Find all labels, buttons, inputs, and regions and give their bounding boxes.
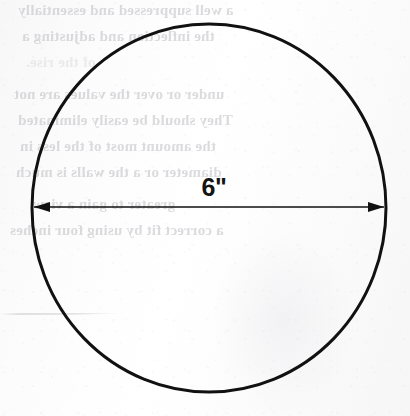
circle-diameter-figure: 6" [0, 0, 410, 416]
diameter-label: 6" [202, 175, 227, 200]
circle-outline [32, 24, 386, 392]
arrowhead-right-icon [368, 202, 384, 212]
scanned-page: a well suppressed and essentially the in… [0, 0, 410, 416]
figure-svg [0, 0, 410, 416]
arrowhead-left-icon [34, 202, 50, 212]
